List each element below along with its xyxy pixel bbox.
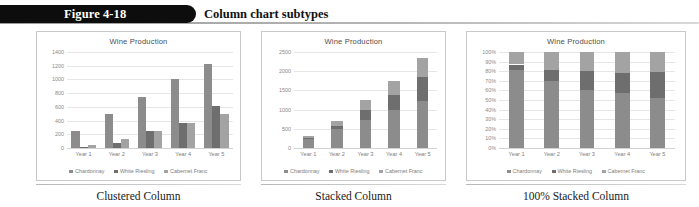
legend-swatch [507, 170, 511, 174]
y-axis-tick-label: 100% [482, 49, 496, 55]
legend-swatch [69, 170, 73, 174]
y-axis-tick-label: 1000 [52, 76, 64, 82]
figure-page: Figure 4-18 Column chart subtypes Wine P… [0, 0, 699, 207]
bar-segment [360, 110, 371, 120]
x-axis-tick-label: Year 1 [294, 151, 323, 158]
stacked-column-chart: Wine Production Year 1Year 2Year 3Year 4… [262, 32, 445, 180]
x-axis-tick-label: Year 2 [323, 151, 352, 158]
bar [220, 114, 228, 148]
legend-swatch [164, 170, 168, 174]
legend-item: Chardonnay [69, 168, 104, 175]
bar [179, 123, 187, 148]
bar-segment [544, 70, 559, 81]
legend-item: White Riesling [329, 168, 369, 175]
bar-segment [303, 138, 314, 139]
legend-label: White Riesling [120, 168, 154, 175]
caption-rule [466, 184, 686, 185]
legend-label: White Riesling [335, 168, 369, 175]
bar-segment [303, 136, 314, 138]
stacked-bar [388, 81, 399, 148]
legend-item: Cabernet Franc [379, 168, 422, 175]
stacked-bar [650, 52, 665, 148]
x-axis-tick-label: Year 4 [380, 151, 409, 158]
plot-area: Year 1Year 2Year 3Year 4Year 5 0%10%20%3… [499, 52, 675, 148]
bar-segment [360, 120, 371, 148]
figure-header: Figure 4-18 Column chart subtypes [0, 2, 699, 26]
bar-segment [615, 52, 630, 73]
y-axis-tick-label: 2000 [279, 68, 291, 74]
legend-label: Cabernet Franc [170, 168, 207, 175]
legend-label: Cabernet Franc [608, 168, 645, 175]
bar [146, 131, 154, 148]
legend-swatch [379, 170, 383, 174]
x-axis-tick-label: Year 2 [534, 151, 569, 158]
y-axis-tick-label: 0% [488, 145, 496, 151]
bar-segment [331, 121, 342, 126]
bar [138, 97, 146, 148]
y-axis-tick-label: 10% [485, 135, 496, 141]
chart-legend: ChardonnayWhite RieslingCabernet Franc [262, 168, 445, 175]
bar-segment [580, 52, 595, 71]
stacked-bar [331, 121, 342, 148]
bar [212, 106, 220, 149]
bar-segment [331, 129, 342, 148]
y-axis-tick-label: 1500 [279, 87, 291, 93]
bar-segment [417, 58, 428, 77]
plot-area: Year 1Year 2Year 3Year 4Year 5 050010001… [294, 52, 437, 148]
legend-label: Chardonnay [513, 168, 542, 175]
legend-item: White Riesling [114, 168, 154, 175]
legend-item: Cabernet Franc [164, 168, 207, 175]
bar [113, 143, 121, 148]
y-axis-tick-label: 70% [485, 78, 496, 84]
stacked-bar [303, 136, 314, 148]
bar-segment [650, 72, 665, 98]
x-axis-tick-label: Year 1 [499, 151, 534, 158]
bar-segment [331, 126, 342, 129]
bar [187, 123, 195, 148]
y-axis-tick-label: 20% [485, 126, 496, 132]
bar-segment [544, 52, 559, 70]
bar-segment [388, 110, 399, 148]
y-axis-tick-label: 60% [485, 87, 496, 93]
stacked-bar [417, 58, 428, 148]
x-axis-tick-label: Year 3 [569, 151, 604, 158]
bar [204, 64, 212, 148]
chart-panel-100-stacked: Wine Production Year 1Year 2Year 3Year 4… [466, 31, 686, 181]
legend-label: White Riesling [558, 168, 592, 175]
y-axis-tick-label: 90% [485, 59, 496, 65]
legend-swatch [284, 170, 288, 174]
bar [171, 79, 179, 148]
chart-panel-stacked: Wine Production Year 1Year 2Year 3Year 4… [261, 31, 446, 181]
stacked-bar [360, 100, 371, 148]
legend-item: Chardonnay [507, 168, 542, 175]
y-axis-tick-label: 600 [55, 104, 64, 110]
y-axis-tick-label: 1400 [52, 49, 64, 55]
bar-segment [303, 138, 314, 148]
legend-swatch [602, 170, 606, 174]
figure-number: Figure 4-18 [64, 7, 184, 21]
chart-legend: ChardonnayWhite RieslingCabernet Franc [37, 168, 240, 175]
bar-segment [650, 98, 665, 148]
x-axis-tick-label: Year 3 [351, 151, 380, 158]
bar-segment [544, 81, 559, 148]
bar-segment [509, 65, 524, 71]
bar [154, 131, 162, 148]
x-axis-tick-label: Year 3 [133, 151, 166, 158]
y-axis-tick-label: 0 [288, 145, 291, 151]
legend-item: Cabernet Franc [602, 168, 645, 175]
chart-panel-clustered: Wine Production Year 1Year 2Year 3Year 4… [36, 31, 241, 181]
legend-swatch [329, 170, 333, 174]
bar [71, 131, 79, 148]
y-axis-tick-label: 800 [55, 90, 64, 96]
bar [80, 147, 88, 148]
legend-label: Chardonnay [290, 168, 319, 175]
bar-segment [509, 52, 524, 64]
caption-rule [36, 184, 241, 185]
legend-item: White Riesling [552, 168, 592, 175]
y-axis-tick-label: 50% [485, 97, 496, 103]
x-axis-tick-label: Year 1 [67, 151, 100, 158]
x-axis-tick-label: Year 4 [605, 151, 640, 158]
legend-item: Chardonnay [284, 168, 319, 175]
stacked-bar [509, 52, 524, 148]
gridline [294, 71, 437, 72]
